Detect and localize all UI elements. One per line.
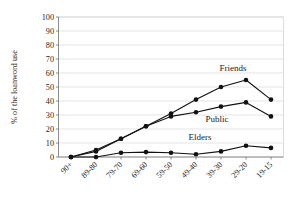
y-tick-label-90: 90: [46, 27, 54, 36]
y-tick-label-50: 50: [46, 83, 54, 92]
data-point-public-39-30: [219, 104, 224, 109]
x-tick-label-8: 19-15: [255, 160, 275, 180]
data-point-friends-19-15: [269, 97, 274, 102]
x-tick-label-3: 69-60: [130, 160, 150, 180]
gridlines-group: [59, 17, 284, 157]
data-point-public-79-70: [119, 137, 124, 142]
data-point-elders-79-70: [119, 151, 124, 156]
data-point-elders-89-80: [94, 155, 99, 160]
data-point-public-19-15: [269, 114, 274, 119]
y-axis-ticks-group: 0102030405060708090100: [42, 13, 59, 162]
chart-canvas: 0102030405060708090100 90+89-8079-7069-6…: [0, 0, 291, 198]
y-tick-label-100: 100: [42, 13, 54, 22]
data-point-public-29-20: [244, 100, 249, 105]
data-point-elders-29-20: [244, 144, 249, 149]
x-tick-label-1: 89-80: [80, 160, 100, 180]
data-point-elders-39-30: [219, 149, 224, 154]
series-line-public: [71, 102, 271, 157]
data-point-elders-49-40: [194, 152, 199, 157]
data-point-elders-59-50: [169, 151, 174, 156]
x-tick-label-6: 39-30: [205, 160, 225, 180]
data-point-elders-69-60: [144, 150, 149, 155]
series-annotation-public: Public: [205, 114, 228, 124]
x-tick-label-4: 59-50: [155, 160, 175, 180]
x-tick-label-2: 79-70: [105, 160, 125, 180]
data-point-public-69-60: [144, 124, 149, 129]
y-tick-label-30: 30: [46, 111, 54, 120]
y-tick-label-70: 70: [46, 55, 54, 64]
y-tick-label-60: 60: [46, 69, 54, 78]
series-annotation-elders: Elders: [189, 132, 212, 142]
x-tick-label-0: 90+: [59, 160, 75, 176]
series-annotation-friends: Friends: [220, 63, 247, 73]
y-tick-label-80: 80: [46, 41, 54, 50]
data-point-friends-29-20: [244, 78, 249, 83]
data-point-friends-39-30: [219, 85, 224, 90]
data-point-elders-19-15: [269, 146, 274, 151]
x-axis-ticks-group: 90+89-8079-7069-6059-5049-4039-3029-2019…: [59, 157, 274, 180]
data-series-group: [69, 78, 274, 160]
data-point-public-59-50: [169, 114, 174, 119]
data-point-public-89-80: [94, 149, 99, 154]
y-tick-label-10: 10: [46, 139, 54, 148]
data-point-friends-49-40: [194, 97, 199, 102]
y-tick-label-40: 40: [46, 97, 54, 106]
x-tick-label-7: 29-20: [230, 160, 250, 180]
loanword-use-line-chart: 0102030405060708090100 90+89-8079-7069-6…: [0, 0, 291, 198]
x-tick-label-5: 49-40: [180, 160, 200, 180]
data-point-elders-90+: [69, 155, 74, 160]
y-tick-label-0: 0: [50, 153, 54, 162]
data-point-public-49-40: [194, 110, 199, 115]
y-axis-title: % of the loanword use: [10, 50, 19, 124]
series-annotations-group: FriendsPublicElders: [189, 63, 247, 142]
y-tick-label-20: 20: [46, 125, 54, 134]
